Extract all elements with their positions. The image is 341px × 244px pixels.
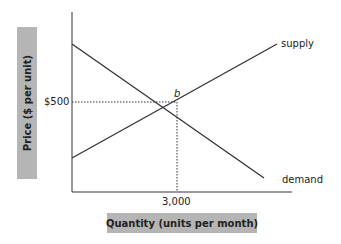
supply-curve: [72, 44, 277, 158]
supply-label: supply: [281, 38, 314, 49]
x-tick-3000: 3,000: [162, 196, 191, 207]
demand-label: demand: [282, 174, 323, 185]
equilibrium-point-label: b: [174, 88, 180, 99]
chart-canvas: [0, 0, 341, 244]
y-axis-label: Price ($ per unit): [17, 27, 37, 179]
x-axis-label: Quantity (units per month): [107, 213, 257, 233]
y-tick-500: $500: [44, 96, 69, 107]
y-axis-label-text: Price ($ per unit): [22, 55, 33, 151]
demand-curve: [72, 44, 264, 178]
